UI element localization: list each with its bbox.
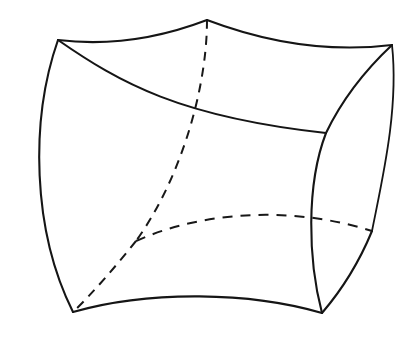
hyperbolic-cube-diagram: Hyperbolic cube Line drawing of a cube w… <box>0 0 412 341</box>
figure-container: Hyperbolic cube Line drawing of a cube w… <box>0 0 412 341</box>
